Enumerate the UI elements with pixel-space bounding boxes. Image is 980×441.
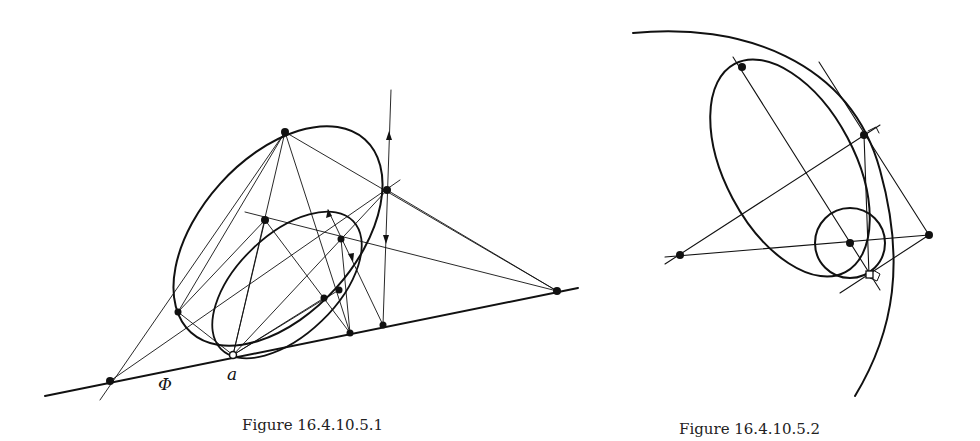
outer-ellipse bbox=[133, 87, 423, 385]
base-line bbox=[45, 288, 578, 396]
figure-2-drawing bbox=[633, 31, 933, 396]
label-phi: Φ bbox=[158, 374, 172, 394]
points-2 bbox=[676, 63, 933, 259]
points bbox=[106, 128, 561, 385]
outer-arc bbox=[633, 31, 894, 396]
figure-1-drawing bbox=[45, 87, 578, 400]
point-a bbox=[230, 352, 237, 359]
construction-lines bbox=[100, 90, 557, 400]
inner-ellipse bbox=[186, 185, 388, 385]
label-a: a bbox=[227, 364, 237, 384]
figure-2-caption: Figure 16.4.10.5.2 bbox=[679, 420, 820, 438]
hollow-point bbox=[866, 271, 873, 278]
diagram-canvas bbox=[0, 0, 980, 441]
construction-lines-2 bbox=[665, 57, 929, 293]
figure-1-caption: Figure 16.4.10.5.1 bbox=[242, 416, 383, 434]
